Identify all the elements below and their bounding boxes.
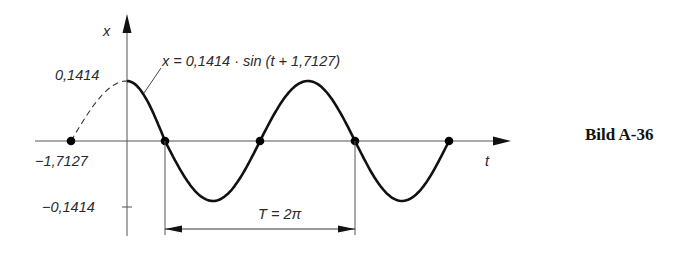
figure-caption: Bild A-36	[585, 125, 654, 145]
x-axis-arrow-icon	[123, 14, 132, 33]
y-axis-label: x	[102, 23, 111, 39]
period-label: T = 2π	[258, 206, 301, 222]
equation-label: x = 0,1414 · sin (t + 1,7127)	[161, 53, 340, 69]
t-axis-arrow-icon	[493, 137, 511, 146]
period-arrow-right-icon	[338, 226, 355, 233]
sine-diagram: x t x = 0,1414 · sin (t + 1,7127) 0,1414…	[0, 0, 683, 253]
period-arrow-left-icon	[165, 226, 182, 233]
phase-curve-dashed	[71, 81, 127, 141]
zero-crossing-point	[256, 137, 265, 146]
phase-shift-point	[67, 137, 76, 146]
tick-label-amplitude-pos: 0,1414	[55, 67, 99, 83]
equation-pointer	[144, 68, 161, 93]
tick-label-amplitude-neg: −0,1414	[42, 199, 95, 215]
zero-crossing-point	[445, 137, 454, 146]
x-axis-label: t	[485, 153, 490, 169]
tick-label-phase: −1,7127	[35, 153, 89, 169]
